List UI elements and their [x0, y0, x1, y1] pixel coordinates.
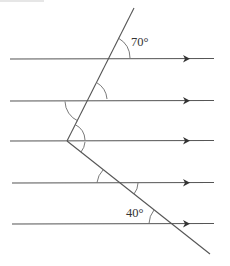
angle-arc-70 [119, 38, 131, 58]
parallel-line-5 [12, 224, 214, 225]
parallel-line-4 [12, 183, 214, 184]
angle-label-40: 40° [126, 206, 144, 220]
parallel-lines-diagram: 70° 40° [0, 0, 230, 266]
parallel-line-2 [10, 101, 214, 102]
angle-arc-line4-right [134, 183, 138, 194]
angle-arc-vertex-lower [81, 142, 85, 152]
parallel-line-3 [10, 141, 214, 142]
transversal-lower-ray [67, 141, 210, 254]
angle-arc-40 [149, 210, 154, 224]
angle-arcs [65, 38, 154, 223]
angle-arc-vertex-upper [75, 125, 85, 141]
direction-arrows [183, 55, 190, 227]
parallel-line-1 [10, 59, 214, 60]
parallel-lines [10, 59, 214, 225]
angle-arc-line4-left [97, 170, 103, 183]
angle-arc-line2-right [97, 83, 108, 100]
angle-label-70: 70° [131, 35, 149, 49]
angle-arc-line2-left [65, 102, 78, 122]
